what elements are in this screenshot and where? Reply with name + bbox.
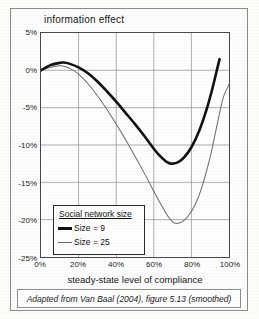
- y-axis-tick-label: -10%: [3, 141, 37, 150]
- x-axis-title: steady-state level of compliance: [40, 274, 230, 285]
- legend-label: Size = 25: [74, 237, 110, 247]
- legend-rows: Size = 9Size = 25: [58, 221, 140, 249]
- series-paths: [41, 59, 229, 223]
- legend-title: Social network size: [58, 209, 140, 219]
- y-axis-tick-label: 0%: [3, 65, 37, 74]
- legend-line-swatch-icon: [58, 227, 72, 230]
- x-axis-tick-label: 80%: [184, 260, 200, 269]
- y-axis-tick-label: -15%: [3, 178, 37, 187]
- x-axis-tick-label: 100%: [220, 260, 240, 269]
- x-axis-tick-label: 0%: [34, 260, 46, 269]
- x-axis-tick-label: 40%: [108, 260, 124, 269]
- caption-box: Adapted from Van Baal (2004), figure 5.1…: [17, 289, 241, 308]
- legend-box: Social network size Size = 9Size = 25: [53, 205, 145, 255]
- y-axis-tick-label: -25%: [3, 254, 37, 263]
- x-axis-tick-label: 60%: [146, 260, 162, 269]
- y-axis-tick-label: 5%: [3, 28, 37, 37]
- legend-row: Size = 25: [58, 235, 140, 249]
- figure-container: information effect 5%0%-5%-10%-15%-20%-2…: [0, 0, 259, 319]
- legend-label: Size = 9: [74, 223, 105, 233]
- legend-line-swatch-icon: [58, 242, 72, 243]
- legend-row: Size = 9: [58, 221, 140, 235]
- y-axis-tick-label: -20%: [3, 216, 37, 225]
- x-axis-tick-labels: 0%20%40%60%80%100%: [40, 260, 230, 274]
- caption-text: Adapted from Van Baal (2004), figure 5.1…: [27, 294, 232, 304]
- y-axis-tick-labels: 5%0%-5%-10%-15%-20%-25%: [0, 32, 37, 258]
- series-line-size-25: [41, 66, 229, 224]
- x-axis-tick-label: 20%: [70, 260, 86, 269]
- gridlines-horizontal: [41, 70, 229, 219]
- chart-title: information effect: [44, 14, 124, 25]
- y-axis-tick-label: -5%: [3, 103, 37, 112]
